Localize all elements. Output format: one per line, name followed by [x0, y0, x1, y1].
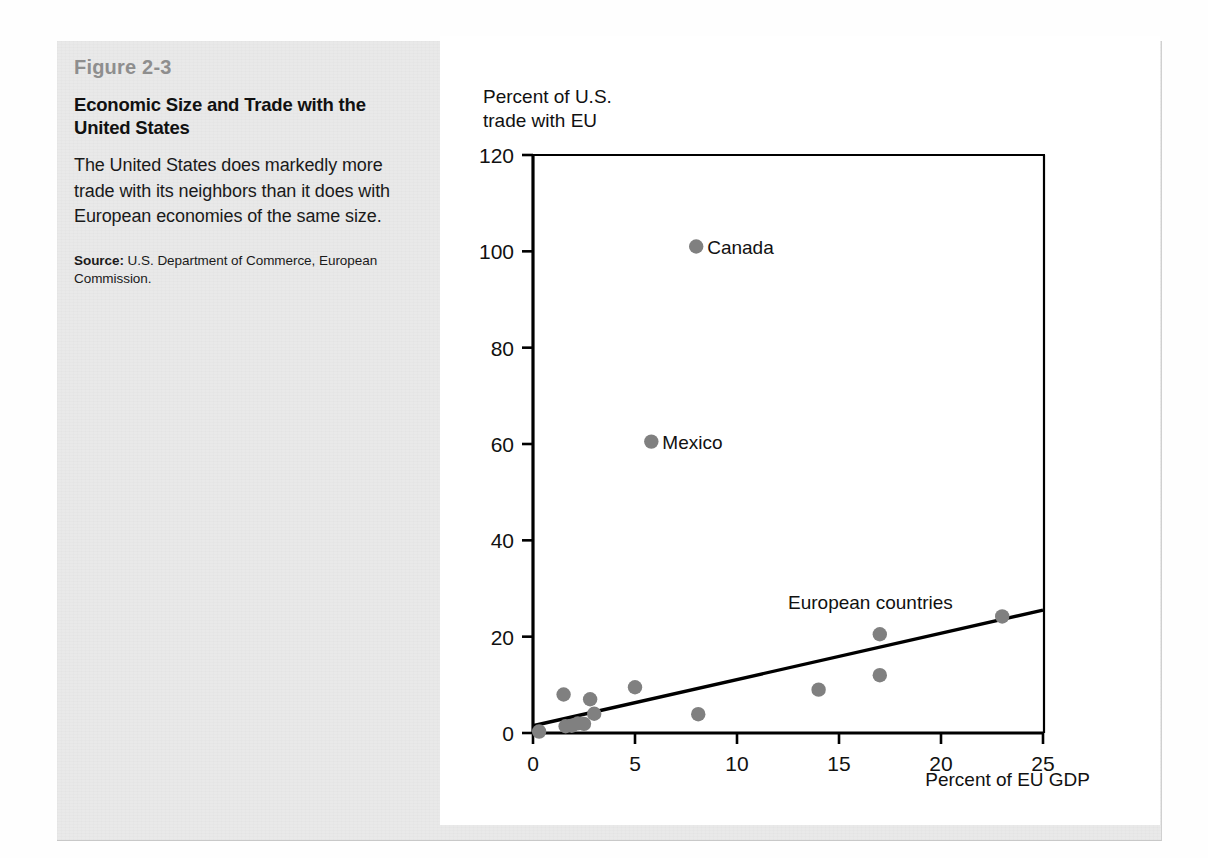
x-tick-label: 20: [929, 752, 952, 775]
y-tick-label: 100: [479, 240, 514, 263]
y-tick-label: 120: [479, 144, 514, 167]
data-point: [689, 239, 703, 253]
source-label: Source:: [74, 253, 124, 268]
y-tick-label: 20: [491, 626, 514, 649]
data-points-layer: [532, 239, 1009, 738]
data-point: [691, 707, 705, 721]
y-tick-label: 60: [491, 433, 514, 456]
trendline-path: [533, 610, 1043, 726]
data-point: [583, 692, 597, 706]
figure-caption-block: Figure 2-3 Economic Size and Trade with …: [74, 56, 404, 289]
data-point: [873, 668, 887, 682]
figure-number: Figure 2-3: [74, 56, 404, 79]
data-point: [556, 687, 570, 701]
x-tick-label: 15: [827, 752, 850, 775]
x-tick-label: 10: [725, 752, 748, 775]
y-tick-label: 40: [491, 529, 514, 552]
x-tick-label: 5: [629, 752, 641, 775]
data-point-label: Mexico: [662, 432, 722, 453]
data-point: [628, 680, 642, 694]
data-point: [873, 627, 887, 641]
data-point: [644, 434, 658, 448]
trendline: [533, 610, 1043, 726]
data-point: [532, 724, 546, 738]
y-tick-label: 80: [491, 337, 514, 360]
figure-description: The United States does markedly more tra…: [74, 153, 404, 230]
data-point: [995, 609, 1009, 623]
data-point: [811, 682, 825, 696]
point-labels-layer: European countriesCanadaMexico: [662, 237, 952, 613]
data-point: [577, 717, 591, 731]
x-tick-label: 0: [527, 752, 539, 775]
plot-area: 0204060801001200510152025 European count…: [440, 36, 1160, 825]
scatter-chart: Percent of U.S. trade with EU Percent of…: [440, 36, 1160, 825]
x-tick-label: 25: [1031, 752, 1054, 775]
data-point: [587, 707, 601, 721]
figure-source: Source: U.S. Department of Commerce, Eur…: [74, 252, 404, 289]
y-tick-label: 0: [502, 722, 514, 745]
figure-title: Economic Size and Trade with the United …: [74, 93, 404, 140]
figure-root: Figure 2-3 Economic Size and Trade with …: [0, 0, 1208, 858]
data-point-label: Canada: [707, 237, 774, 258]
series-annotation-european-countries: European countries: [788, 592, 953, 613]
